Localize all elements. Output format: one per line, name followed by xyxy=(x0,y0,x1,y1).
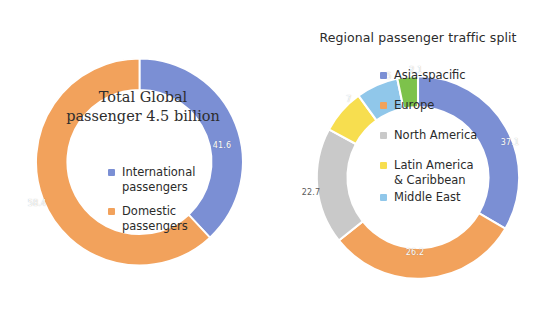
legend-label-latin-america: Latin America & Caribbean xyxy=(394,158,480,188)
left-donut-ring xyxy=(22,42,257,282)
right-chart-legend: Asia-spacific Europe North America Latin… xyxy=(380,68,480,220)
left-donut-chart-panel: 41.6 58.4 Total Global passenger 4.5 bil… xyxy=(0,0,285,323)
legend-swatch-icon xyxy=(380,194,387,201)
right-chart-title: Regional passenger traffic split xyxy=(285,30,551,45)
legend-swatch-icon xyxy=(380,132,387,139)
legend-item-north-america[interactable]: North America xyxy=(380,128,480,143)
legend-item-latin-america[interactable]: Latin America & Caribbean xyxy=(380,158,480,188)
legend-label-europe: Europe xyxy=(394,98,434,113)
legend-swatch-icon xyxy=(108,208,115,215)
slice-north-america[interactable] xyxy=(317,129,363,240)
legend-swatch-icon xyxy=(380,102,387,109)
legend-item-international[interactable]: International passengers xyxy=(108,165,195,195)
left-chart-legend: International passengers Domestic passen… xyxy=(108,165,195,243)
legend-item-domestic[interactable]: Domestic passengers xyxy=(108,204,195,234)
legend-item-europe[interactable]: Europe xyxy=(380,98,480,113)
right-donut-chart-panel: Regional passenger traffic split 37.1 26… xyxy=(285,0,551,323)
legend-item-middle-east[interactable]: Middle East xyxy=(380,190,480,205)
legend-label-international: International passengers xyxy=(122,165,195,195)
slice-europe[interactable] xyxy=(339,213,506,279)
legend-label-north-america: North America xyxy=(394,128,477,143)
legend-swatch-icon xyxy=(380,162,387,169)
legend-label-asia-spacific: Asia-spacific xyxy=(394,68,466,83)
legend-label-domestic: Domestic passengers xyxy=(122,204,188,234)
legend-item-asia-spacific[interactable]: Asia-spacific xyxy=(380,68,480,83)
left-donut-svg xyxy=(22,42,257,282)
legend-swatch-icon xyxy=(108,169,115,176)
legend-label-middle-east: Middle East xyxy=(394,190,460,205)
legend-swatch-icon xyxy=(380,72,387,79)
